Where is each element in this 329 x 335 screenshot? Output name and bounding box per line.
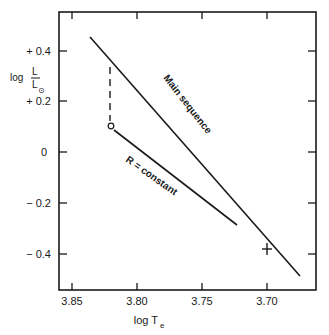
x-axis-label: log T (134, 314, 159, 326)
x-tick-label: 3.85 (61, 295, 82, 307)
x-tick-label: 3.70 (256, 295, 277, 307)
svg-text:⊙: ⊙ (38, 86, 45, 95)
x-tick-label: 3.80 (126, 295, 147, 307)
y-axis-label: log L L ⊙ (10, 66, 45, 95)
x-axis-label-subscript: e (160, 321, 165, 330)
plus-marker (262, 243, 272, 255)
main-sequence-line (90, 37, 300, 276)
x-tick-label: 3.75 (191, 295, 212, 307)
y-tick-label: − 0.2 (26, 197, 51, 209)
y-tick-label: + 0.2 (26, 95, 51, 107)
y-ticks (59, 51, 316, 254)
svg-text:L: L (32, 66, 38, 77)
svg-text:log: log (10, 72, 23, 83)
y-tick-label: + 0.4 (26, 45, 51, 57)
y-tick-label: 0 (41, 146, 47, 158)
r-constant-line (114, 130, 237, 225)
y-tick-label: − 0.4 (26, 248, 51, 260)
x-ticks (72, 12, 267, 290)
hr-diagram: 3.85 3.80 3.75 3.70 log T e + 0.4 + 0.2 … (0, 0, 329, 335)
open-circle-marker (108, 123, 114, 129)
plot-frame (59, 12, 316, 290)
